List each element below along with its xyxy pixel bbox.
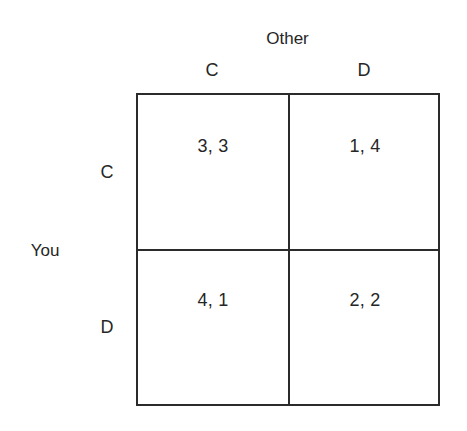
matrix-grid: 3, 3 1, 4 4, 1 2, 2 [136,93,440,406]
matrix-cell-dc: 4, 1 [138,251,288,405]
matrix-cell-cd: 1, 4 [290,95,440,249]
row-player-label: You [0,242,90,259]
payoff-value: 4, 1 [197,290,228,311]
payoff-value: 3, 3 [197,136,228,157]
column-header-c: C [136,61,288,79]
payoff-matrix-figure: Other C D You C D 3, 3 1, 4 4, 1 2, 2 [0,0,467,431]
matrix-cell-cc: 3, 3 [138,95,288,249]
payoff-value: 2, 2 [349,290,380,311]
column-player-label: Other [0,30,467,47]
column-header-d: D [288,61,440,79]
row-header-c: C [86,163,128,181]
matrix-cell-dd: 2, 2 [290,251,440,405]
column-player-label-text: Other [266,30,309,47]
row-header-d: D [86,318,128,336]
payoff-value: 1, 4 [349,136,380,157]
